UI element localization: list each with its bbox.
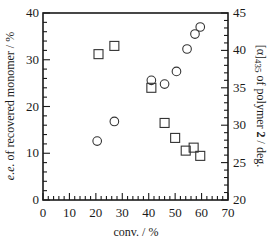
- tick-labels: 010203040506070010203040202530354045: [26, 5, 246, 220]
- y-right-title-c: / deg.: [254, 138, 268, 168]
- square-marker: [94, 50, 103, 59]
- x-tick-label: 10: [63, 205, 76, 220]
- y-right-tick-label: 45: [233, 5, 246, 20]
- square-marker: [196, 151, 205, 160]
- data-markers: [93, 23, 205, 161]
- y-right-tick-label: 30: [233, 117, 246, 132]
- y-right-tick-label: 40: [233, 42, 246, 57]
- x-tick-label: 0: [40, 205, 47, 220]
- plot-border: [43, 13, 228, 200]
- axis-ticks: [43, 13, 228, 200]
- square-marker: [160, 118, 169, 127]
- y-left-tick-label: 10: [26, 145, 39, 160]
- circle-marker: [160, 80, 169, 89]
- y-left-title-italic: e.e.: [3, 163, 17, 180]
- x-tick-label: 40: [142, 205, 155, 220]
- y-right-tick-label: 25: [233, 155, 246, 170]
- y-left-tick-label: 40: [26, 5, 39, 20]
- y-right-title-sub: 435: [253, 59, 263, 73]
- square-marker: [110, 41, 119, 50]
- y-left-tick-label: 0: [33, 192, 40, 207]
- scatter-chart: 010203040506070010203040202530354045 con…: [0, 0, 270, 243]
- y-left-axis-title: e.e. of recovered monomer / %: [3, 32, 17, 180]
- x-axis-title: conv. / %: [114, 225, 159, 239]
- circle-marker: [196, 23, 205, 32]
- y-left-title-rest: of recovered monomer / %: [3, 32, 17, 164]
- x-tick-label: 60: [195, 205, 208, 220]
- x-tick-label: 70: [222, 205, 235, 220]
- circle-marker: [93, 137, 102, 146]
- x-tick-label: 30: [116, 205, 129, 220]
- y-right-axis-title: [α]435 of polymer 2 / deg.: [253, 45, 268, 167]
- y-right-tick-label: 20: [233, 192, 246, 207]
- y-right-title-b: of polymer: [254, 73, 268, 132]
- circle-marker: [172, 67, 181, 76]
- x-tick-label: 50: [169, 205, 182, 220]
- x-tick-label: 20: [89, 205, 102, 220]
- square-marker: [171, 133, 180, 142]
- circle-marker: [110, 117, 119, 126]
- y-left-tick-label: 30: [26, 52, 39, 67]
- y-right-tick-label: 35: [233, 80, 246, 95]
- circle-marker: [183, 45, 192, 54]
- y-left-tick-label: 20: [26, 99, 39, 114]
- y-right-title-a: [α]: [254, 45, 268, 59]
- plot-frame: [43, 13, 228, 200]
